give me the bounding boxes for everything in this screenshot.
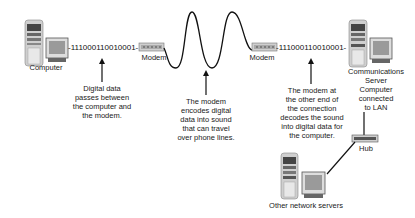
server-monitor-icon: [370, 38, 392, 63]
other-servers-label: Other network servers: [266, 201, 346, 210]
annotation-line: the computer.: [270, 131, 354, 140]
annotation-line: encodes digital: [168, 106, 244, 115]
annotation-line: The modem: [168, 97, 244, 106]
hub-label: Hub: [356, 144, 376, 153]
annotation-line: the other end of: [270, 95, 354, 104]
arrow-encode: [203, 70, 209, 95]
annotation-line: into digital data for: [270, 122, 354, 131]
annotation-line: data into sound: [168, 115, 244, 124]
annotation-decode: The modem at the other end of the connec…: [270, 86, 354, 140]
other-servers-monitor-icon: [302, 172, 325, 198]
annotation-line: over phone lines.: [168, 133, 244, 142]
computer-monitor-icon: [46, 38, 68, 62]
annotation-line: Digital data: [64, 84, 140, 93]
annotation-encode: The modem encodes digital data into soun…: [168, 97, 244, 142]
modem-right-icon: [252, 43, 277, 51]
hub-icon: [352, 135, 378, 142]
hub-servers-link: [327, 142, 355, 174]
server-tower-icon: [349, 20, 367, 67]
annotation-line: that can travel: [168, 124, 244, 133]
server-label-line: Server: [340, 76, 412, 85]
phone-line-wave: [164, 12, 252, 68]
bitstream-left: -111000110010001-: [68, 43, 138, 52]
computer-tower-icon: [25, 20, 43, 66]
annotation-line: The modem at: [270, 86, 354, 95]
bitstream-right: -111000110010001-: [276, 43, 346, 52]
arrow-digital: [99, 58, 105, 82]
computer-label: Computer: [26, 63, 66, 72]
modem-right-label: Modem: [248, 53, 276, 62]
modem-left-label: Modem: [140, 53, 168, 62]
annotation-line: the modem.: [64, 111, 140, 120]
annotation-line: the computer and: [64, 102, 140, 111]
annotation-line: decodes the sound: [270, 113, 354, 122]
annotation-line: the connection: [270, 104, 354, 113]
annotation-digital: Digital data passes between the computer…: [64, 84, 140, 120]
server-label-line: Communications: [340, 67, 412, 76]
arrow-decode: [308, 58, 314, 84]
annotation-line: passes between: [64, 93, 140, 102]
other-servers-tower-icon: [281, 153, 298, 199]
modem-left-icon: [139, 43, 164, 51]
